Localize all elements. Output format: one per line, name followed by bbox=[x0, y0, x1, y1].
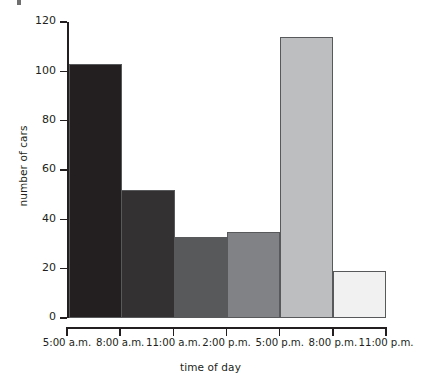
y-axis-tick: 120 bbox=[60, 21, 67, 23]
y-axis-tick: 40 bbox=[60, 219, 67, 221]
x-axis-tick-label: 5:00 p.m. bbox=[255, 337, 304, 348]
y-axis-tick-mark bbox=[60, 71, 67, 73]
bar bbox=[69, 64, 122, 318]
y-axis-tick: 20 bbox=[60, 268, 67, 270]
bar bbox=[121, 190, 174, 318]
x-axis-tick-mark bbox=[66, 327, 68, 336]
x-axis-tick-mark bbox=[173, 327, 175, 336]
y-axis-tick-label: 100 bbox=[35, 64, 56, 77]
bar bbox=[227, 232, 280, 318]
y-axis-tick-label: 120 bbox=[35, 14, 56, 27]
x-axis-tick-mark bbox=[332, 327, 334, 336]
x-axis-tick-labels: 5:00 a.m.8:00 a.m.11:00 a.m.2:00 p.m.5:0… bbox=[0, 337, 421, 353]
y-axis-tick: 80 bbox=[60, 120, 67, 122]
x-axis-title: time of day bbox=[0, 361, 421, 373]
y-axis-title: number of cars bbox=[17, 106, 29, 226]
x-axis-tick-label: 11:00 p.m. bbox=[359, 337, 414, 348]
y-axis-tick-label: 60 bbox=[42, 162, 56, 175]
y-axis-tick-mark bbox=[60, 169, 67, 171]
crop-artifact-mark bbox=[17, 0, 21, 5]
y-axis-tick-label: 20 bbox=[42, 261, 56, 274]
y-axis-tick: 60 bbox=[60, 169, 67, 171]
bar bbox=[280, 37, 333, 318]
x-axis-tick-mark bbox=[119, 327, 121, 336]
bar bbox=[333, 271, 386, 318]
y-axis-tick-mark bbox=[60, 120, 67, 122]
x-axis-tick-label: 5:00 a.m. bbox=[43, 337, 91, 348]
x-axis bbox=[67, 327, 387, 337]
y-axis-tick-label: 40 bbox=[42, 212, 56, 225]
y-axis-tick-mark bbox=[60, 317, 67, 319]
y-axis-tick-mark bbox=[60, 219, 67, 221]
y-axis-tick: 0 bbox=[60, 317, 67, 319]
x-axis-tick-mark bbox=[385, 327, 387, 336]
x-axis-tick-label: 2:00 p.m. bbox=[202, 337, 251, 348]
x-axis-tick-label: 11:00 a.m. bbox=[146, 337, 201, 348]
y-axis-tick: 100 bbox=[60, 71, 67, 73]
x-axis-tick-label: 8:00 p.m. bbox=[309, 337, 358, 348]
y-axis-tick-mark bbox=[60, 268, 67, 270]
histogram-chart: number of cars 020406080100120 5:00 a.m.… bbox=[0, 0, 421, 387]
y-axis-tick-label: 0 bbox=[49, 310, 56, 323]
x-axis-tick-mark bbox=[279, 327, 281, 336]
plot-area: 020406080100120 bbox=[67, 22, 386, 318]
y-axis-tick-label: 80 bbox=[42, 113, 56, 126]
y-axis-tick-mark bbox=[60, 21, 67, 23]
bar bbox=[174, 237, 227, 318]
x-axis-tick-mark bbox=[226, 327, 228, 336]
x-axis-tick-label: 8:00 a.m. bbox=[96, 337, 144, 348]
bar-series bbox=[69, 22, 386, 318]
